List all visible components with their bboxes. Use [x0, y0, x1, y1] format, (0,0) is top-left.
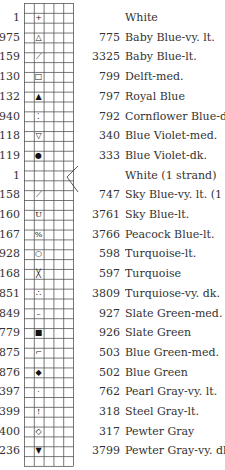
- legend-entry: 928○598Turquoise-lt.: [0, 244, 225, 264]
- color-name: Turquoise-lt.: [125, 244, 196, 264]
- color-name: Sky Blue-vy. lt. (1 strand): [125, 185, 225, 205]
- legend-entry: 236▼3799Pewter Gray-vy. dk.: [0, 441, 225, 461]
- right-code: 598: [75, 244, 120, 264]
- right-code: 3325: [75, 47, 120, 67]
- right-code: 926: [75, 323, 120, 343]
- x-icon: ╳: [34, 269, 43, 278]
- color-name: White (1 strand): [125, 166, 216, 186]
- color-name: Peacock Blue-lt.: [125, 225, 214, 245]
- empty-symbol: [34, 171, 43, 180]
- legend-entry: 876◆502Blue Green: [0, 363, 225, 383]
- right-code: 503: [75, 343, 120, 363]
- color-name: Pearl Gray-vy. lt.: [125, 382, 217, 402]
- left-code: 160: [0, 205, 20, 225]
- left-code: 168: [0, 264, 20, 284]
- color-name: Blue Green-med.: [125, 343, 219, 363]
- right-code: 3809: [75, 284, 120, 304]
- left-code: 132: [0, 87, 20, 107]
- color-name: Turquoise: [125, 264, 181, 284]
- three-dots-icon: ∴: [34, 289, 43, 298]
- legend-entry: 168╳597Turquoise: [0, 264, 225, 284]
- right-code: 792: [75, 107, 120, 127]
- color-name: Steel Gray-lt.: [125, 402, 199, 422]
- legend-entry: 1+White: [0, 8, 225, 28]
- legend-entry: 158⟋747Sky Blue-vy. lt. (1 strand): [0, 185, 225, 205]
- legend-entry: 975△775Baby Blue-vy. lt.: [0, 28, 225, 48]
- exclamation-icon: !: [34, 407, 43, 416]
- legend-entry: 400◇317Pewter Gray: [0, 422, 225, 442]
- left-code: 928: [0, 244, 20, 264]
- dot-icon: ·: [34, 387, 43, 396]
- color-name: Blue Green: [125, 363, 188, 383]
- left-code: 236: [0, 441, 20, 461]
- percent-icon: %: [34, 230, 43, 239]
- left-code: 849: [0, 304, 20, 324]
- left-code: 940: [0, 107, 20, 127]
- color-name: White: [125, 8, 158, 28]
- legend-entry: 399!318Steel Gray-lt.: [0, 402, 225, 422]
- corner-dot-icon: ⌐: [34, 348, 43, 357]
- right-code: 502: [75, 363, 120, 383]
- legend-entry: 132▲797Royal Blue: [0, 87, 225, 107]
- left-code: 1: [0, 166, 20, 186]
- right-code: 597: [75, 264, 120, 284]
- legend-entry: 119●333Blue Violet-dk.: [0, 146, 225, 166]
- legend-entry: 159⟋3325Baby Blue-lt.: [0, 47, 225, 67]
- right-code: 317: [75, 422, 120, 442]
- right-code: 340: [75, 126, 120, 146]
- diamond-outline-icon: ◇: [34, 427, 43, 436]
- left-code: 851: [0, 284, 20, 304]
- legend-entry: 779■926Slate Green: [0, 323, 225, 343]
- left-code: 975: [0, 28, 20, 48]
- legend-entry: 940⁚792Cornflower Blue-dk.: [0, 107, 225, 127]
- left-code: 130: [0, 67, 20, 87]
- left-code: 159: [0, 47, 20, 67]
- legend-entry: 875⌐503Blue Green-med.: [0, 343, 225, 363]
- color-name: Blue Violet-med.: [125, 126, 217, 146]
- color-name: Cornflower Blue-dk.: [125, 107, 225, 127]
- dots-icon: ⁚: [34, 112, 43, 121]
- plus-icon: +: [34, 13, 43, 22]
- left-code: 158: [0, 185, 20, 205]
- right-code: 3766: [75, 225, 120, 245]
- blended-diagonal-icon: ⟋: [34, 190, 43, 199]
- right-code: 775: [75, 28, 120, 48]
- left-code: 1: [0, 8, 20, 28]
- color-name: Royal Blue: [125, 87, 185, 107]
- filled-diamond-icon: ◆: [34, 368, 43, 377]
- legend-entry: 851∴3809Turquiose-vy. dk.: [0, 284, 225, 304]
- strand-bracket-icon: [66, 165, 80, 195]
- left-code: 400: [0, 422, 20, 442]
- triangle-outline-icon: △: [34, 33, 43, 42]
- right-code: 3761: [75, 205, 120, 225]
- u-icon: U: [34, 210, 43, 219]
- legend-entry: 118▽340Blue Violet-med.: [0, 126, 225, 146]
- color-name: Pewter Gray: [125, 422, 194, 442]
- color-name: Baby Blue-lt.: [125, 47, 197, 67]
- left-code: 876: [0, 363, 20, 383]
- right-code: 797: [75, 87, 120, 107]
- color-name: Slate Green: [125, 323, 191, 343]
- legend-entry: 397·762Pearl Gray-vy. lt.: [0, 382, 225, 402]
- left-code: 118: [0, 126, 20, 146]
- color-name: Delft-med.: [125, 67, 184, 87]
- left-code: 779: [0, 323, 20, 343]
- left-code: 875: [0, 343, 20, 363]
- triangle-down-outline-icon: ▽: [34, 131, 43, 140]
- legend-entry: 1White (1 strand): [0, 166, 225, 186]
- right-code: 762: [75, 382, 120, 402]
- right-code: 927: [75, 304, 120, 324]
- legend-entry: 849–927Slate Green-med.: [0, 304, 225, 324]
- small-triangle-icon: ▲: [34, 92, 43, 101]
- dash-icon: –: [34, 309, 43, 318]
- filled-square-icon: ■: [34, 328, 43, 337]
- diagonal-dash-icon: ⟋: [34, 52, 43, 61]
- color-name: Blue Violet-dk.: [125, 146, 207, 166]
- right-code: 318: [75, 402, 120, 422]
- color-name: Slate Green-med.: [125, 304, 222, 324]
- right-code: 333: [75, 146, 120, 166]
- left-code: 167: [0, 225, 20, 245]
- left-code: 399: [0, 402, 20, 422]
- color-name: Pewter Gray-vy. dk.: [125, 441, 225, 461]
- left-code: 119: [0, 146, 20, 166]
